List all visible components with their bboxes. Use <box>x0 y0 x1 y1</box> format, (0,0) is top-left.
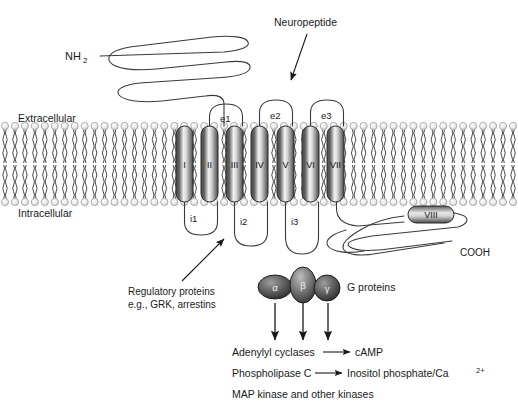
helix-vi: VI <box>302 126 319 202</box>
lipid-head-inner <box>91 198 98 205</box>
lipid-head-inner <box>81 198 88 205</box>
regulatory-proteins-line2: e.g., GRK, arrestins <box>128 299 216 310</box>
extracellular-label: Extracellular <box>18 112 76 124</box>
lipid-head-inner <box>480 198 487 205</box>
lipid-head-inner <box>141 198 148 205</box>
lipid-head-inner <box>191 198 198 205</box>
lipid-head-outer <box>480 122 487 129</box>
lipid-head-outer <box>460 122 467 129</box>
lipid-head-outer <box>450 122 457 129</box>
g-proteins-label: G proteins <box>347 281 395 293</box>
loop-e2-label: e2 <box>270 110 281 121</box>
lipid-head-outer <box>430 122 437 129</box>
lipid-head-inner <box>509 198 516 205</box>
lipid-head-inner <box>161 198 168 205</box>
lipid-head-inner <box>370 198 377 205</box>
lipid-head-inner <box>51 198 58 205</box>
helix-label: V <box>282 160 288 170</box>
helix-viii: VIII <box>408 206 454 223</box>
lipid-head-outer <box>131 122 138 129</box>
lipid-head-outer <box>171 122 178 129</box>
lipid-head-outer <box>81 122 88 129</box>
lipid-head-inner <box>131 198 138 205</box>
lipid-head-inner <box>499 198 506 205</box>
lipid-head-outer <box>489 122 496 129</box>
lipid-head-inner <box>400 198 407 205</box>
lipid-head-outer <box>440 122 447 129</box>
helix-iii: III <box>226 126 243 202</box>
lipid-head-inner <box>11 198 18 205</box>
lipid-head-outer <box>390 122 397 129</box>
lipid-head-outer <box>91 122 98 129</box>
lipid-head-outer <box>380 122 387 129</box>
lipid-head-outer <box>410 122 417 129</box>
helix-label: I <box>183 160 186 170</box>
lipid-head-inner <box>390 198 397 205</box>
lipid-head-outer <box>270 122 277 129</box>
lipid-head-inner <box>111 198 118 205</box>
lipid-head-inner <box>270 198 277 205</box>
subunit-label: γ <box>325 283 330 294</box>
lipid-head-outer <box>320 122 327 129</box>
pathway-2-target: Inositol phosphate/Ca <box>347 367 449 379</box>
helix-i: I <box>176 126 193 202</box>
lipid-head-outer <box>121 122 128 129</box>
lipid-head-inner <box>360 198 367 205</box>
lipid-head-inner <box>320 198 327 205</box>
loop-e1-label: e1 <box>220 113 231 124</box>
subunit-label: β <box>300 280 306 291</box>
pathway-3-source: MAP kinase and other kinases <box>232 388 374 400</box>
loop-i1-label: i1 <box>190 213 197 224</box>
lipid-head-outer <box>101 122 108 129</box>
transmembrane-helices: IIIIIIIVVVIVII <box>176 126 344 202</box>
lipid-head-inner <box>240 198 247 205</box>
lipid-head-inner <box>61 198 68 205</box>
lipid-head-outer <box>509 122 516 129</box>
lipid-head-inner <box>410 198 417 205</box>
lipid-head-outer <box>350 122 357 129</box>
cooh-label: COOH <box>460 247 490 258</box>
pathway-row-2: Phospholipase C Inositol phosphate/Ca 2+ <box>232 366 485 379</box>
helix-v: V <box>277 126 294 202</box>
pathway-1-target: cAMP <box>355 346 383 358</box>
lipid-head-inner <box>21 198 28 205</box>
lipid-head-inner <box>489 198 496 205</box>
lipid-head-outer <box>370 122 377 129</box>
lipid-head-outer <box>420 122 427 129</box>
lipid-head-inner <box>430 198 437 205</box>
lipid-head-outer <box>141 122 148 129</box>
lipid-head-inner <box>460 198 467 205</box>
helix-viii-label: VIII <box>424 210 438 220</box>
lipid-head-inner <box>1 198 8 205</box>
neuropeptide-label: Neuropeptide <box>274 16 337 28</box>
loop-e3-label: e3 <box>321 110 332 121</box>
pathway-2-target-superscript: 2+ <box>476 366 485 375</box>
lipid-head-outer <box>111 122 118 129</box>
lipid-head-outer <box>360 122 367 129</box>
lipid-head-inner <box>420 198 427 205</box>
helix-label: III <box>231 160 239 170</box>
lipid-head-inner <box>350 198 357 205</box>
lipid-head-inner <box>221 198 228 205</box>
helix-iv: IV <box>251 126 268 202</box>
pathway-1-source: Adenylyl cyclases <box>232 346 315 358</box>
lipid-head-inner <box>450 198 457 205</box>
g-beta-subunit: β <box>290 267 316 303</box>
intracellular-label: Intracellular <box>18 207 73 219</box>
lipid-head-outer <box>470 122 477 129</box>
lipid-head-outer <box>400 122 407 129</box>
lipid-head-inner <box>380 198 387 205</box>
lipid-head-outer <box>161 122 168 129</box>
loop-i2-label: i2 <box>240 216 247 227</box>
lipid-head-outer <box>151 122 158 129</box>
lipid-head-inner <box>71 198 78 205</box>
subunit-label: α <box>272 282 278 293</box>
nh2-text: NH <box>65 50 81 62</box>
helix-vii: VII <box>327 126 344 202</box>
lipid-head-outer <box>1 122 8 129</box>
lipid-head-inner <box>470 198 477 205</box>
helix-label: VII <box>330 160 341 170</box>
lipid-head-outer <box>499 122 506 129</box>
lipid-head-inner <box>31 198 38 205</box>
figure-canvas: NH 2 Neuropeptide e1 e2 e3 i1 i2 i3 COOH <box>0 0 518 416</box>
